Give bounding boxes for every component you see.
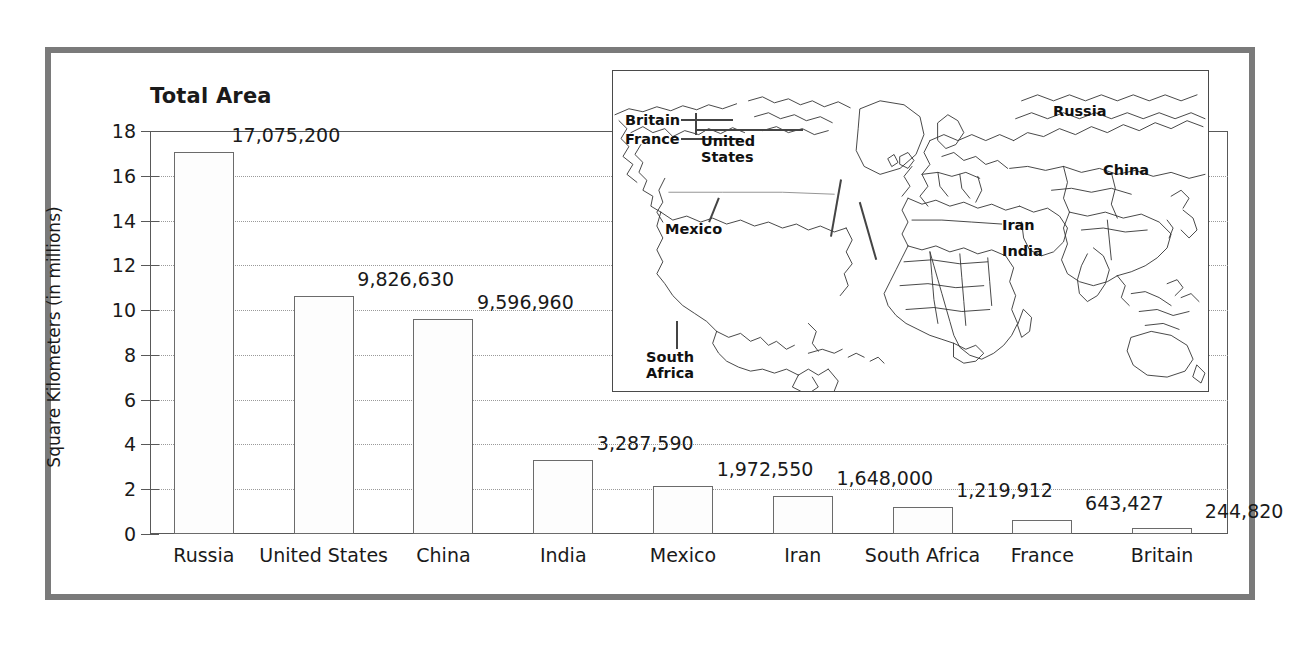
x-axis-tick-label: Iran (784, 544, 821, 566)
x-axis-tick-label: Mexico (650, 544, 716, 566)
y-axis-tick-label: 12 (112, 254, 136, 276)
bar-value-label: 1,972,550 (717, 458, 814, 480)
bar (533, 460, 593, 534)
axis-right-line (1227, 131, 1228, 534)
y-axis-tick (141, 265, 159, 266)
y-axis-tick-label: 6 (124, 389, 136, 411)
y-axis-tick-label: 14 (112, 210, 136, 232)
bar (1132, 528, 1192, 534)
y-axis-tick (141, 400, 159, 401)
map-label-united-states: United States (701, 133, 755, 165)
world-map-inset: United States Mexico Britain France Russ… (612, 70, 1209, 392)
figure-root: Total Area Square Kilometers (in million… (0, 0, 1300, 647)
bar (893, 507, 953, 534)
x-axis-tick-label: India (540, 544, 587, 566)
bar-value-label: 1,219,912 (956, 479, 1053, 501)
y-axis-tick (141, 310, 159, 311)
y-axis-tick (141, 534, 159, 535)
map-label-south-africa: South Africa (646, 349, 694, 381)
x-axis-tick-label: Britain (1131, 544, 1194, 566)
leader-line-united-states (695, 129, 803, 131)
map-label-south-africa-line1: South (646, 349, 694, 365)
y-axis-tick-label: 8 (124, 344, 136, 366)
bar-value-label: 3,287,590 (597, 432, 694, 454)
leader-line-united-states-vert (695, 113, 697, 135)
y-axis-label: Square Kilometers (in millions) (44, 187, 64, 487)
bar (773, 496, 833, 535)
y-axis-tick-label: 2 (124, 478, 136, 500)
y-axis-tick (141, 176, 159, 177)
bar-value-label: 1,648,000 (836, 467, 933, 489)
x-axis-tick-label: Russia (173, 544, 234, 566)
x-axis-tick-label: China (416, 544, 470, 566)
map-label-united-states-line1: United (701, 133, 755, 149)
bar-value-label: 9,826,630 (357, 268, 454, 290)
map-label-iran: Iran (1002, 217, 1035, 233)
map-label-china: China (1103, 162, 1149, 178)
bar-chart: Total Area Square Kilometers (in million… (0, 0, 1300, 647)
map-label-india: India (1002, 243, 1043, 259)
map-label-united-states-line2: States (701, 149, 755, 165)
map-label-britain: Britain (625, 112, 680, 128)
bar (174, 152, 234, 534)
bar (413, 319, 473, 534)
y-axis-tick (141, 131, 159, 132)
y-axis-tick (141, 355, 159, 356)
y-axis-tick (141, 444, 159, 445)
bar-value-label: 643,427 (1085, 492, 1164, 514)
bar-value-label: 244,820 (1205, 500, 1284, 522)
leader-line-south-africa (676, 321, 678, 349)
map-label-france: France (625, 131, 680, 147)
bar (1012, 520, 1072, 534)
map-label-south-africa-line2: Africa (646, 365, 694, 381)
y-axis-line (150, 131, 151, 534)
map-label-mexico: Mexico (665, 221, 722, 237)
x-axis-tick-label: South Africa (865, 544, 980, 566)
y-axis-tick-label: 18 (112, 120, 136, 142)
bar-value-label: 9,596,960 (477, 291, 574, 313)
y-axis-tick (141, 489, 159, 490)
y-axis-tick (141, 221, 159, 222)
x-axis-tick-label: United States (259, 544, 388, 566)
leader-line-britain (681, 119, 733, 121)
chart-title: Total Area (150, 84, 272, 108)
y-axis-tick-label: 4 (124, 433, 136, 455)
y-axis-tick-label: 10 (112, 299, 136, 321)
bar (653, 486, 713, 534)
y-axis-tick-label: 0 (124, 523, 136, 545)
y-axis-tick-label: 16 (112, 165, 136, 187)
bar (294, 296, 354, 534)
x-axis-tick-label: France (1011, 544, 1074, 566)
map-label-russia: Russia (1053, 103, 1107, 119)
bar-value-label: 17,075,200 (231, 124, 340, 146)
